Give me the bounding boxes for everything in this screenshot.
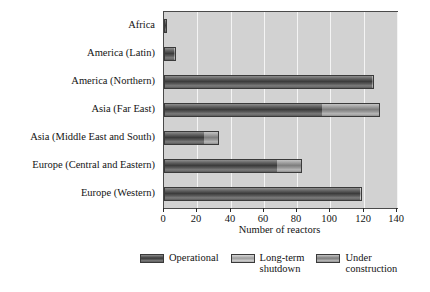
bar-segment-under-construction bbox=[322, 103, 380, 117]
gridline bbox=[397, 12, 398, 208]
chart-legend: OperationalLong-term shutdownUnder const… bbox=[140, 252, 430, 286]
y-axis-label: Asia (Far East) bbox=[91, 103, 155, 114]
bar-segment-under-construction bbox=[174, 47, 176, 61]
bar-segment-operational bbox=[164, 47, 174, 61]
x-axis-tick bbox=[329, 208, 330, 212]
y-axis-label: Europe (Western) bbox=[81, 187, 155, 198]
y-axis-label: Europe (Central and Eastern) bbox=[32, 159, 155, 170]
operational-swatch bbox=[140, 254, 164, 263]
bar-segment-under-construction bbox=[277, 159, 302, 173]
bar-segment-under-construction bbox=[204, 131, 219, 145]
bar-row bbox=[164, 131, 219, 145]
bar-row bbox=[164, 159, 302, 173]
under-construction-swatch bbox=[316, 254, 340, 263]
bar-row bbox=[164, 47, 176, 61]
bar-row bbox=[164, 187, 362, 201]
legend-item: Long-term shutdown bbox=[231, 252, 305, 274]
legend-item: Under construction bbox=[316, 252, 397, 274]
bar-segment-operational bbox=[164, 159, 277, 173]
x-axis-tick bbox=[163, 208, 164, 212]
x-axis-tick bbox=[396, 208, 397, 212]
bar-segment-under-construction bbox=[372, 75, 374, 89]
plot-area bbox=[163, 11, 398, 209]
x-axis-tick bbox=[263, 208, 264, 212]
y-axis-label: America (Latin) bbox=[87, 47, 155, 58]
legend-label: Under construction bbox=[345, 252, 397, 274]
bar-segment-shutdown bbox=[360, 187, 362, 201]
bar-row bbox=[164, 103, 380, 117]
y-axis-category-labels: AfricaAmerica (Latin)America (Northern)A… bbox=[0, 11, 159, 207]
bar-segment-operational bbox=[164, 75, 372, 89]
bar-series-container bbox=[164, 12, 397, 208]
x-axis-tick bbox=[296, 208, 297, 212]
horizontal-stacked-bar-chart: AfricaAmerica (Latin)America (Northern)A… bbox=[0, 0, 430, 292]
x-axis-title: Number of reactors bbox=[163, 224, 396, 235]
bar-row bbox=[164, 75, 374, 89]
x-axis-tick bbox=[363, 208, 364, 212]
bar-segment-operational bbox=[164, 103, 322, 117]
y-axis-label: America (Northern) bbox=[71, 75, 155, 86]
legend-label: Long-term shutdown bbox=[260, 252, 305, 274]
legend-label: Operational bbox=[169, 252, 219, 263]
bar-segment-operational bbox=[164, 187, 360, 201]
bar-row bbox=[164, 19, 167, 33]
y-axis-label: Asia (Middle East and South) bbox=[30, 131, 155, 142]
shutdown-swatch bbox=[231, 254, 255, 263]
bar-segment-operational bbox=[164, 19, 167, 33]
legend-item: Operational bbox=[140, 252, 219, 263]
x-axis-tick bbox=[196, 208, 197, 212]
bar-segment-operational bbox=[164, 131, 204, 145]
y-axis-label: Africa bbox=[128, 19, 155, 30]
x-axis-tick bbox=[230, 208, 231, 212]
